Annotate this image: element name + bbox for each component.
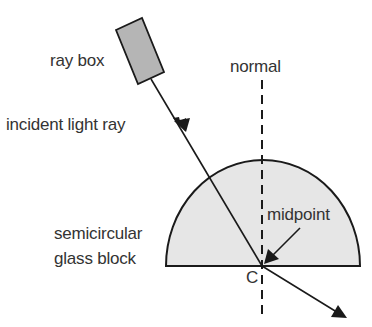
glass-block-label-line1: semicircular [54,224,142,243]
glass-block-label-line2: glass block [54,249,136,268]
center-point-label: C [246,268,258,287]
ray-box-label: ray box [50,51,104,70]
incident-ray-label: incident light ray [6,115,125,134]
normal-label: normal [230,57,281,76]
diagram-canvas [0,0,372,327]
midpoint-label: midpoint [267,205,330,224]
emergent-light-ray [262,266,340,314]
ray-box [116,18,164,84]
refraction-diagram: ray box normal incident light ray semici… [0,0,372,327]
emergent-arrowhead-icon [331,305,347,318]
